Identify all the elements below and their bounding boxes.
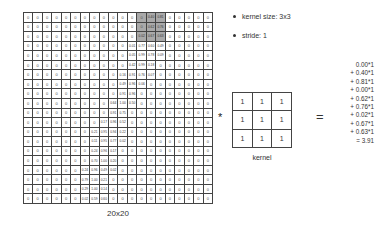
kernel-grid: 1 1 1 1 1 1 1 1 1 bbox=[232, 92, 292, 148]
grid-cell: 1.00 bbox=[90, 175, 99, 185]
grid-cell: 0 bbox=[137, 13, 146, 23]
grid-cell: 0 bbox=[185, 128, 194, 138]
grid-cell: 0 bbox=[43, 137, 52, 147]
grid-cell: 0 bbox=[175, 61, 184, 71]
grid-cell: 0 bbox=[118, 23, 127, 33]
grid-cell: 0 bbox=[43, 61, 52, 71]
grid-cell: 0.95 bbox=[100, 137, 109, 147]
grid-cell: 0.60 bbox=[100, 194, 109, 204]
grid-cell: 0 bbox=[175, 128, 184, 138]
grid-cell: 0 bbox=[71, 128, 80, 138]
grid-cell: 0 bbox=[137, 89, 146, 99]
grid-cell: 0 bbox=[52, 80, 61, 90]
grid-cell: 0 bbox=[71, 137, 80, 147]
grid-cell: 0.49 bbox=[118, 80, 127, 90]
grid-cell: 0 bbox=[43, 128, 52, 138]
grid-cell: 0 bbox=[156, 156, 165, 166]
grid-cell: 0 bbox=[118, 185, 127, 195]
grid-cell: 0 bbox=[137, 175, 146, 185]
grid-cell: 0 bbox=[71, 13, 80, 23]
grid-cell: 0 bbox=[90, 13, 99, 23]
equation-line: + 0.62*1 bbox=[338, 95, 374, 103]
grid-cell: 0 bbox=[137, 137, 146, 147]
grid-cell: 0 bbox=[62, 23, 71, 33]
grid-cell: 0 bbox=[90, 99, 99, 109]
grid-cell: 0 bbox=[156, 194, 165, 204]
equation-line: + 0.02*1 bbox=[338, 111, 374, 119]
grid-cell: 0.76 bbox=[156, 23, 165, 33]
grid-cell: 0 bbox=[137, 185, 146, 195]
grid-cell: 0 bbox=[166, 80, 175, 90]
grid-cell: 0 bbox=[24, 51, 33, 61]
grid-cell: 0 bbox=[147, 194, 156, 204]
grid-cell: 0 bbox=[71, 99, 80, 109]
grid-cell: 0 bbox=[175, 109, 184, 119]
grid-cell: 0 bbox=[62, 70, 71, 80]
equation-line: + 0.00*1 bbox=[338, 86, 374, 94]
grid-cell: 0 bbox=[128, 194, 137, 204]
grid-cell: 0 bbox=[62, 51, 71, 61]
grid-cell: 0 bbox=[118, 156, 127, 166]
grid-cell: 1.00 bbox=[118, 99, 127, 109]
grid-cell: 0 bbox=[81, 42, 90, 52]
grid-cell: 0 bbox=[43, 194, 52, 204]
grid-cell: 0 bbox=[71, 185, 80, 195]
grid-cell: 0 bbox=[185, 89, 194, 99]
grid-cell: 0.40 bbox=[147, 13, 156, 23]
grid-cell: 0 bbox=[147, 89, 156, 99]
equation: 0.00*1 + 0.40*1 + 0.81*1 + 0.00*1 + 0.62… bbox=[338, 61, 374, 145]
grid-cell: 0 bbox=[204, 166, 213, 176]
grid-cell: 0.20 bbox=[109, 156, 118, 166]
grid-cell: 0 bbox=[128, 13, 137, 23]
grid-cell: 0 bbox=[185, 166, 194, 176]
grid-cell: 0 bbox=[175, 99, 184, 109]
grid-cell: 0 bbox=[147, 185, 156, 195]
grid-cell: 0 bbox=[166, 42, 175, 52]
grid-cell: 0.91 bbox=[128, 70, 137, 80]
convolve-operator: * bbox=[218, 111, 222, 123]
grid-cell: 0 bbox=[147, 147, 156, 157]
grid-cell: 0 bbox=[24, 61, 33, 71]
grid-cell: 0 bbox=[62, 166, 71, 176]
grid-cell: 0 bbox=[100, 99, 109, 109]
equals-operator: = bbox=[316, 109, 324, 124]
grid-cell: 0 bbox=[24, 175, 33, 185]
grid-cell: 0 bbox=[137, 99, 146, 109]
grid-cell: 0 bbox=[147, 166, 156, 176]
grid-cell: 0 bbox=[204, 51, 213, 61]
grid-cell: 0 bbox=[33, 128, 42, 138]
grid-cell: 0 bbox=[137, 166, 146, 176]
grid-cell: 0 bbox=[194, 23, 203, 33]
param-kernel-size: kernel size: 3x3 bbox=[233, 10, 291, 22]
grid-cell: 0 bbox=[109, 194, 118, 204]
equation-line: + 0.76*1 bbox=[338, 103, 374, 111]
grid-cell: 0 bbox=[194, 147, 203, 157]
grid-cell: 0 bbox=[43, 156, 52, 166]
grid-cell: 0 bbox=[137, 147, 146, 157]
grid-cell: 0.70 bbox=[90, 156, 99, 166]
grid-cell: 0 bbox=[52, 99, 61, 109]
grid-cell: 0 bbox=[175, 80, 184, 90]
grid-cell: 0.96 bbox=[128, 89, 137, 99]
grid-cell: 0 bbox=[62, 61, 71, 71]
grid-cell: 0 bbox=[90, 89, 99, 99]
grid-cell: 0 bbox=[71, 32, 80, 42]
grid-cell: 0 bbox=[71, 61, 80, 71]
grid-cell: 0 bbox=[62, 42, 71, 52]
grid-cell: 0 bbox=[175, 118, 184, 128]
kernel-cell: 1 bbox=[233, 93, 253, 111]
grid-cell: 0.17 bbox=[109, 147, 118, 157]
grid-cell: 0 bbox=[100, 32, 109, 42]
input-grid: 00000000000000.400.810000000000000000000… bbox=[23, 12, 213, 204]
grid-cell: 0 bbox=[81, 147, 90, 157]
grid-cell: 0 bbox=[33, 137, 42, 147]
grid-cell: 0 bbox=[62, 156, 71, 166]
grid-cell: 0 bbox=[43, 42, 52, 52]
grid-cell: 0 bbox=[81, 128, 90, 138]
grid-cell: 0 bbox=[81, 156, 90, 166]
grid-cell: 0 bbox=[81, 118, 90, 128]
grid-cell: 0 bbox=[128, 118, 137, 128]
grid-cell: 0 bbox=[109, 23, 118, 33]
grid-cell: 0 bbox=[147, 175, 156, 185]
grid-cell: 0 bbox=[128, 156, 137, 166]
